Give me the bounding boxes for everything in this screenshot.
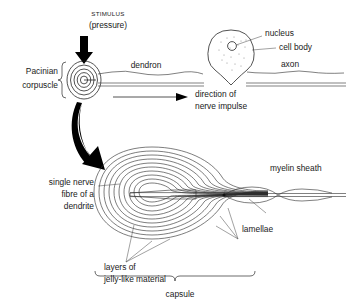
pacinian-corpuscle-diagram: STIMULUS (pressure) Pacinian corpuscle d…	[0, 0, 352, 307]
nucleus-label: nucleus	[265, 28, 294, 38]
pressure-label: (pressure)	[89, 20, 127, 30]
axon-label: axon	[281, 59, 300, 69]
single-nerve-leader-line	[98, 184, 120, 186]
jelly-layers-label-line2: jelly-like material	[103, 274, 166, 284]
dendron-label: dendron	[131, 60, 162, 70]
direction-label-line2: nerve impulse	[195, 101, 247, 111]
pacinian-corpuscle-brace	[58, 62, 66, 98]
pacinian-corpuscle-label-line2: corpuscle	[22, 80, 58, 90]
stimulus-label: STIMULUS	[91, 10, 124, 17]
diagram-canvas: STIMULUS (pressure) Pacinian corpuscle d…	[0, 0, 352, 307]
myelin-sheath-label: myelin sheath	[270, 163, 322, 173]
cell-body-leader-line	[252, 48, 276, 50]
pacinian-corpuscle-label-line1: Pacinian	[26, 66, 58, 76]
magnify-curved-arrow	[72, 102, 105, 170]
myelin-sheath-leader-line	[249, 199, 266, 213]
direction-label-line1: direction of	[195, 89, 237, 99]
single-nerve-label-line1: single nerve	[49, 177, 95, 187]
dendron-tube	[98, 71, 204, 86]
axon-tube	[246, 71, 346, 86]
nucleus-circle	[228, 42, 237, 51]
pacinian-corpuscle-small	[67, 61, 101, 99]
jelly-layers-label-line1: layers of	[104, 262, 136, 272]
capsule-label: capsule	[166, 289, 195, 299]
node-of-ranvier	[223, 194, 226, 197]
nerve-impulse-arrow	[113, 93, 188, 101]
cell-body-shape	[208, 30, 254, 85]
single-nerve-label-line3: dendrite	[64, 201, 95, 211]
lamellae-leader-lines	[216, 208, 238, 239]
jelly-layers-leader-lines	[126, 225, 170, 262]
lamellae-label: lamellae	[242, 224, 274, 234]
cell-body-label: cell body	[279, 42, 313, 52]
single-nerve-label-line2: fibre of a	[61, 189, 94, 199]
stimulus-arrow	[75, 36, 93, 64]
